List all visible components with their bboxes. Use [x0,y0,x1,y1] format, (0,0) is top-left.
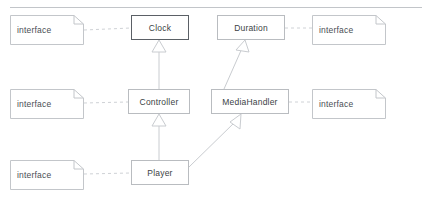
interface-note-controller[interactable]: interface [10,89,84,119]
interface-note-clock[interactable]: interface [10,15,84,45]
interface-note-label: interface [319,99,353,109]
interface-note-label: interface [17,170,51,180]
edge-player-controller [152,114,166,160]
diagram-canvas: Clock Duration Controller MediaHandler P… [0,0,422,204]
class-node-label: Controller [140,97,179,107]
interface-note-label: interface [17,99,51,109]
edge-mediahandler-duration [224,40,249,89]
edge-note-controller [84,102,128,103]
edge-note-player [84,173,131,174]
class-node-clock[interactable]: Clock [131,15,189,40]
top-divider-line [10,7,422,8]
interface-note-label: interface [319,25,353,35]
class-node-controller[interactable]: Controller [128,89,190,114]
class-node-mediahandler[interactable]: MediaHandler [211,89,289,114]
class-node-label: Duration [234,23,268,33]
interface-note-duration[interactable]: interface [312,15,386,45]
class-node-label: Player [147,168,172,178]
edge-player-mediahandler [189,114,241,167]
edge-controller-clock [152,40,166,89]
interface-note-player[interactable]: interface [10,160,84,190]
interface-note-mediahandler[interactable]: interface [312,89,386,119]
class-node-duration[interactable]: Duration [217,15,285,40]
class-node-label: MediaHandler [222,97,277,107]
class-node-label: Clock [149,23,171,33]
interface-note-label: interface [17,25,51,35]
edge-note-clock [84,28,131,30]
class-node-player[interactable]: Player [131,160,189,185]
